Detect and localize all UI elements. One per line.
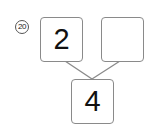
connector-line-right [92,61,120,79]
bottom-total-box: 4 [71,79,114,124]
top-left-number-box: 2 [40,17,83,62]
connector-line-left [65,61,92,79]
top-right-answer-box[interactable] [101,17,144,62]
